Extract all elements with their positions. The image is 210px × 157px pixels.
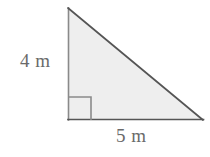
horizontal-side-label: 5 m bbox=[116, 126, 147, 145]
vertical-side-label: 4 m bbox=[20, 51, 51, 70]
triangle-figure: 4 m 5 m bbox=[0, 0, 210, 157]
triangle-diagram-svg bbox=[0, 0, 210, 157]
